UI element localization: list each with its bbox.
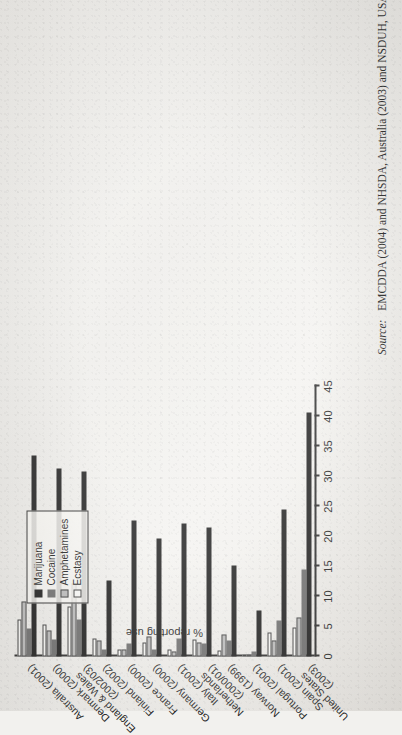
bar-cocaine — [26, 628, 30, 656]
bar-marijuana — [256, 610, 260, 656]
bar-amphetamines — [171, 651, 175, 656]
bar-cocaine — [101, 649, 105, 656]
bar-amphetamines — [46, 630, 50, 656]
bar-ecstasy — [267, 632, 271, 656]
bar-amphetamines — [196, 642, 200, 656]
y-tick-label-40: 40 — [321, 410, 333, 422]
source-text: EMCDDA (2004) and NHSDA, Australia (2003… — [376, 0, 388, 311]
bar-marijuana — [281, 509, 285, 656]
legend-item-cocaine: Cocaine — [44, 518, 57, 597]
bar-amphetamines — [296, 617, 300, 656]
bar-amphetamines — [221, 634, 225, 656]
y-tick-45 — [314, 385, 319, 387]
bar-ecstasy — [167, 649, 171, 656]
bar-amphetamines — [96, 640, 100, 656]
bar-group — [264, 384, 289, 656]
y-tick-10 — [314, 595, 319, 597]
bar-ecstasy — [42, 624, 46, 656]
legend-label-marijuana: Marijuana — [32, 541, 43, 585]
y-axis-title-wrap: % reporting use — [14, 625, 314, 626]
y-tick-label-25: 25 — [321, 500, 333, 512]
y-tick-label-35: 35 — [321, 440, 333, 452]
bar-marijuana — [106, 580, 110, 656]
y-tick-30 — [314, 475, 319, 477]
bar-ecstasy — [292, 627, 296, 656]
bar-amphetamines — [121, 649, 125, 656]
legend-label-amphetamines: Amphetamines — [58, 518, 69, 585]
y-tick-15 — [314, 565, 319, 567]
bar-cocaine — [301, 569, 305, 656]
bar-cocaine — [51, 639, 55, 656]
legend-label-cocaine: Cocaine — [45, 548, 56, 585]
bar-cocaine — [226, 640, 230, 656]
bar-group — [164, 384, 189, 656]
bar-amphetamines — [271, 640, 275, 656]
bar-amphetamines — [146, 636, 150, 656]
bar-cocaine — [251, 651, 255, 656]
bar-group — [289, 384, 314, 656]
bar-marijuana — [306, 412, 310, 656]
source-label: Source: — [376, 320, 388, 355]
y-tick-35 — [314, 445, 319, 447]
bar-amphetamines — [21, 601, 25, 656]
y-tick-20 — [314, 535, 319, 537]
bar-ecstasy — [67, 606, 71, 656]
bar-cocaine — [76, 619, 80, 656]
bar-group — [114, 384, 139, 656]
legend-item-ecstasy: Ecstasy — [70, 518, 83, 597]
bar-ecstasy — [217, 650, 221, 656]
bar-group — [189, 384, 214, 656]
bar-ecstasy — [242, 654, 246, 656]
y-tick-25 — [314, 505, 319, 507]
legend-label-ecstasy: Ecstasy — [71, 550, 82, 585]
legend-swatch-ecstasy — [73, 589, 81, 597]
bar-cocaine — [201, 643, 205, 656]
bar-ecstasy — [117, 649, 121, 656]
bar-group — [239, 384, 264, 656]
y-tick-40 — [314, 415, 319, 417]
y-tick-label-0: 0 — [321, 653, 333, 659]
bar-marijuana — [206, 527, 210, 656]
bar-cocaine — [126, 643, 130, 656]
bar-cocaine — [176, 638, 180, 656]
legend: Marijuana Cocaine Amphetamines Ecstasy — [26, 510, 88, 603]
y-tick-5 — [314, 625, 319, 627]
y-tick-label-45: 45 — [321, 380, 333, 392]
legend-item-marijuana: Marijuana — [31, 518, 44, 597]
source-caption: Source:EMCDDA (2004) and NHSDA, Australi… — [376, 0, 388, 355]
legend-item-amphetamines: Amphetamines — [57, 518, 70, 597]
bar-marijuana — [231, 565, 235, 656]
y-tick-label-5: 5 — [321, 623, 333, 629]
legend-swatch-amphetamines — [60, 589, 68, 597]
y-axis-title: % reporting use — [125, 626, 202, 638]
bar-group — [139, 384, 164, 656]
y-tick-0 — [314, 655, 319, 657]
legend-swatch-cocaine — [47, 589, 55, 597]
y-tick-label-15: 15 — [321, 560, 333, 572]
bar-group — [89, 384, 114, 656]
y-tick-label-10: 10 — [321, 590, 333, 602]
bar-amphetamines — [246, 654, 250, 656]
bar-ecstasy — [92, 638, 96, 656]
bar-ecstasy — [142, 642, 146, 656]
bar-group — [214, 384, 239, 656]
y-tick-label-30: 30 — [321, 470, 333, 482]
legend-swatch-marijuana — [34, 589, 42, 597]
y-tick-label-20: 20 — [321, 530, 333, 542]
bar-cocaine — [151, 649, 155, 656]
bar-ecstasy — [192, 639, 196, 656]
